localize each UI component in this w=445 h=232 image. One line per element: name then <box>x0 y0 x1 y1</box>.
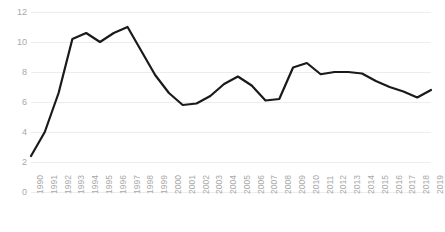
x-tick-label: 1998 <box>145 175 155 194</box>
x-tick-label: 2003 <box>214 175 224 194</box>
x-tick-label: 2018 <box>421 175 431 194</box>
x-tick-label: 1993 <box>76 175 86 194</box>
x-tick-label: 2010 <box>311 175 321 194</box>
x-tick-label: 2011 <box>325 176 335 194</box>
series-line <box>31 27 431 156</box>
x-tick-label: 1990 <box>35 175 45 194</box>
x-tick-label: 2017 <box>407 175 417 194</box>
x-tick-label: 1997 <box>132 175 142 194</box>
x-tick-label: 2000 <box>173 175 183 194</box>
x-tick-label: 2001 <box>187 175 197 194</box>
x-tick-label: 2004 <box>228 175 238 194</box>
x-tick-label: 1996 <box>118 175 128 194</box>
x-tick-label: 2002 <box>201 175 211 194</box>
x-tick-label: 1992 <box>63 175 73 194</box>
x-axis: 1990199119921993199419951996199719981999… <box>31 194 431 232</box>
x-tick-label: 1995 <box>104 175 114 194</box>
x-tick-label: 2012 <box>338 175 348 194</box>
x-tick-label: 2007 <box>269 175 279 194</box>
x-tick-label: 2013 <box>352 175 362 194</box>
x-tick-label: 1999 <box>159 175 169 194</box>
x-tick-label: 2014 <box>366 175 376 194</box>
x-tick-label: 1991 <box>49 175 59 194</box>
x-tick-label: 2019 <box>435 175 445 194</box>
x-tick-label: 1994 <box>90 175 100 194</box>
x-tick-label: 2015 <box>380 175 390 194</box>
x-tick-label: 2009 <box>297 175 307 194</box>
x-tick-label: 2008 <box>283 175 293 194</box>
x-tick-label: 2005 <box>242 175 252 194</box>
x-tick-label: 2016 <box>394 175 404 194</box>
x-tick-label: 2006 <box>256 175 266 194</box>
